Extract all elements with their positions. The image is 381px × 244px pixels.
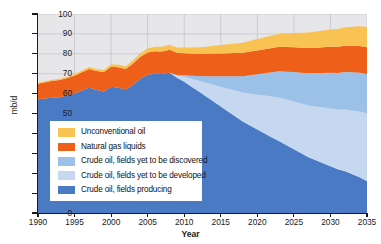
y-axis-title: mb/d bbox=[9, 85, 19, 125]
legend-label: Crude oil, fields producing bbox=[81, 186, 172, 194]
legend-swatch bbox=[58, 128, 75, 137]
y-tick bbox=[32, 193, 37, 194]
legend-swatch bbox=[58, 186, 75, 195]
y-tick-label: 70 bbox=[46, 69, 72, 77]
x-axis-line bbox=[37, 213, 368, 214]
y-tick bbox=[32, 93, 37, 94]
y-tick-label: 80 bbox=[46, 49, 72, 57]
y-tick bbox=[32, 153, 37, 154]
legend-label: Natural gas liquids bbox=[81, 143, 146, 151]
legend-label: Crude oil, fields yet to be discovered bbox=[81, 157, 207, 165]
y-tick bbox=[32, 33, 37, 34]
legend-item[interactable]: Unconventional oil bbox=[58, 126, 145, 139]
x-tick-label: 2025 bbox=[274, 218, 314, 226]
x-tick-label: 2035 bbox=[347, 218, 381, 226]
y-tick bbox=[32, 212, 37, 213]
x-axis-title: Year bbox=[0, 229, 381, 239]
legend-item[interactable]: Crude oil, fields yet to be discovered bbox=[58, 155, 207, 168]
y-tick-label: 50 bbox=[46, 109, 72, 117]
legend-label: Unconventional oil bbox=[81, 128, 145, 136]
y-tick bbox=[32, 113, 37, 114]
x-tick-label: 1995 bbox=[55, 218, 95, 226]
y-tick bbox=[32, 13, 37, 14]
y-tick-label: 60 bbox=[46, 89, 72, 97]
x-tick-label: 2030 bbox=[310, 218, 350, 226]
x-tick-label: 2005 bbox=[128, 218, 168, 226]
y-tick bbox=[32, 173, 37, 174]
legend-item[interactable]: Natural gas liquids bbox=[58, 140, 146, 153]
legend-item[interactable]: Crude oil, fields yet to be developed bbox=[58, 169, 206, 182]
legend-label: Crude oil, fields yet to be developed bbox=[81, 172, 206, 180]
y-tick bbox=[32, 73, 37, 74]
x-tick-label: 2000 bbox=[91, 218, 131, 226]
legend-swatch bbox=[58, 157, 75, 166]
legend-item[interactable]: Crude oil, fields producing bbox=[58, 184, 172, 197]
x-tick-label: 2015 bbox=[201, 218, 241, 226]
chart-legend: Unconventional oilNatural gas liquidsCru… bbox=[50, 121, 202, 201]
y-tick-label: 100 bbox=[46, 10, 72, 18]
chart-figure: 0102030405060708090100 19901995200020052… bbox=[0, 0, 381, 244]
y-tick bbox=[32, 133, 37, 134]
y-tick-label: 0 bbox=[46, 209, 72, 217]
legend-swatch bbox=[58, 171, 75, 180]
x-tick-label: 2010 bbox=[164, 218, 204, 226]
x-tick-label: 1990 bbox=[18, 218, 58, 226]
y-tick-label: 90 bbox=[46, 29, 72, 37]
x-tick-label: 2020 bbox=[237, 218, 277, 226]
legend-swatch bbox=[58, 143, 75, 152]
y-tick bbox=[32, 53, 37, 54]
y-axis-line bbox=[37, 13, 38, 214]
